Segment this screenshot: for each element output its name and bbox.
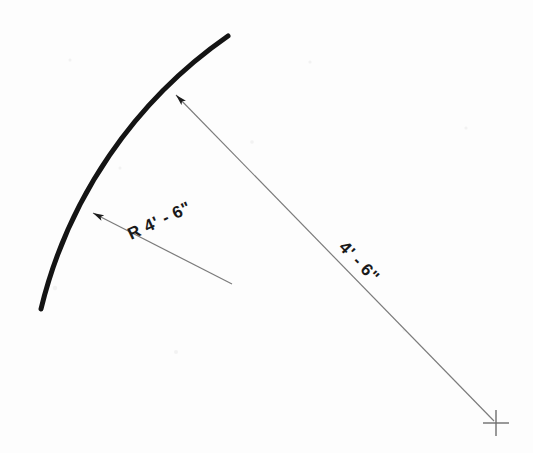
paper-background <box>0 0 533 453</box>
drawing-svg-root: R 4' - 6" 4' - 6" <box>0 0 533 453</box>
technical-drawing-canvas: R 4' - 6" 4' - 6" <box>0 0 533 453</box>
